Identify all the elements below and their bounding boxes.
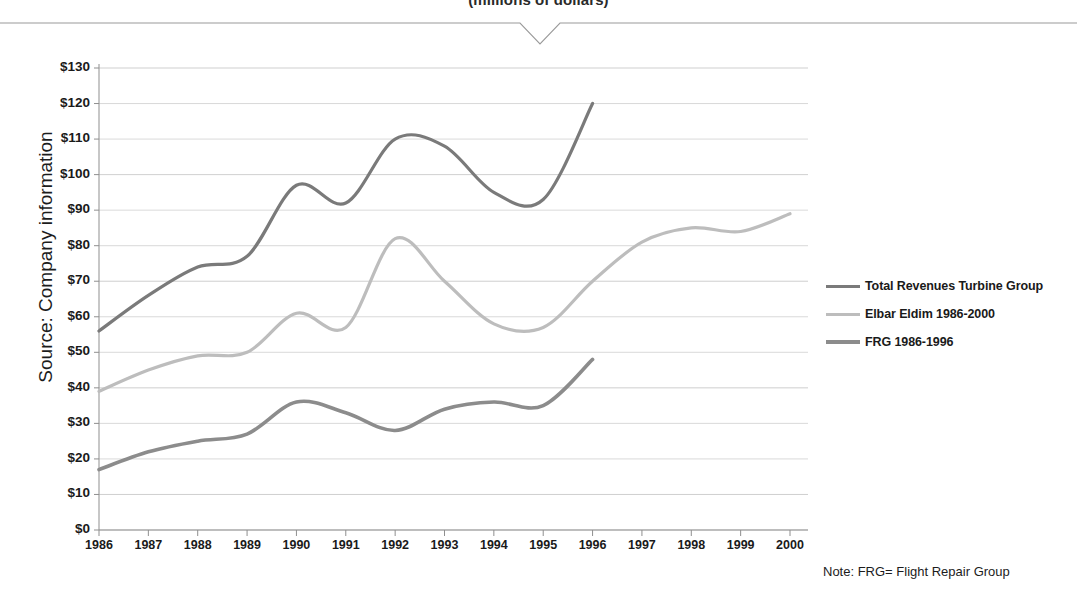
y-axis-tick-label: $20	[26, 450, 90, 465]
x-axis-tick-label: 1992	[367, 538, 423, 552]
x-axis-tick-label: 1991	[318, 538, 374, 552]
x-axis-tick-label: 1996	[565, 538, 621, 552]
axis-lines	[94, 64, 808, 530]
y-axis-tick-label: $10	[26, 485, 90, 500]
y-axis-tick-label: $80	[26, 237, 90, 252]
data-series-layer	[99, 104, 790, 470]
y-axis-tick-label: $50	[26, 343, 90, 358]
legend-item[interactable]: Elbar Eldim 1986-2000	[826, 300, 1076, 328]
y-axis-tick-label: $110	[26, 130, 90, 145]
x-axis-tick-label: 1988	[170, 538, 226, 552]
legend-item-label: FRG 1986-1996	[865, 335, 953, 349]
series-line-0	[99, 104, 593, 331]
legend-color-swatch	[826, 313, 860, 316]
legend-item-label: Elbar Eldim 1986-2000	[865, 307, 995, 321]
x-axis-tick-label: 1990	[268, 538, 324, 552]
legend-item-label: Total Revenues Turbine Group	[865, 279, 1043, 293]
series-line-1	[99, 214, 790, 392]
y-axis-tick-label: $0	[26, 521, 90, 536]
x-axis-tick-label: 1986	[71, 538, 127, 552]
series-line-2	[99, 359, 593, 469]
y-axis-tick-label: $120	[26, 95, 90, 110]
x-axis-tick-label: 1993	[417, 538, 473, 552]
y-axis-tick-label: $30	[26, 414, 90, 429]
y-axis-tick-label: $40	[26, 379, 90, 394]
legend-item[interactable]: FRG 1986-1996	[826, 328, 1076, 356]
x-axis-tick-label: 1997	[614, 538, 670, 552]
y-axis-tick-label: $70	[26, 272, 90, 287]
chart-footnote: Note: FRG= Flight Repair Group	[823, 564, 1010, 579]
x-axis-tick-label: 1994	[466, 538, 522, 552]
x-axis-tick-label: 1995	[515, 538, 571, 552]
y-axis-tick-label: $90	[26, 201, 90, 216]
x-axis-tick-label: 1987	[120, 538, 176, 552]
legend-color-swatch	[826, 340, 860, 344]
chart-legend: Total Revenues Turbine GroupElbar Eldim …	[826, 272, 1076, 356]
y-axis-tick-label: $130	[26, 59, 90, 74]
legend-item[interactable]: Total Revenues Turbine Group	[826, 272, 1076, 300]
gridlines	[99, 68, 808, 530]
y-axis-tick-label: $60	[26, 308, 90, 323]
x-axis-tick-label: 1989	[219, 538, 275, 552]
x-axis-tick-label: 2000	[762, 538, 818, 552]
x-axis-tick-label: 1999	[713, 538, 769, 552]
x-axis-ticks	[99, 530, 790, 536]
legend-color-swatch	[826, 285, 860, 288]
x-axis-tick-label: 1998	[663, 538, 719, 552]
y-axis-tick-label: $100	[26, 166, 90, 181]
